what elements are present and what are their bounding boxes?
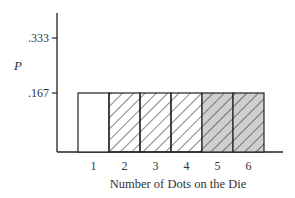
bar-1 (78, 93, 109, 152)
xtick-label-6: 6 (246, 159, 252, 173)
ytick-label-167: .167 (28, 86, 49, 100)
xtick-label-4: 4 (184, 159, 190, 173)
xtick-label-1: 1 (91, 159, 97, 173)
bar-5 (202, 93, 233, 152)
xtick-label-3: 3 (153, 159, 159, 173)
ytick-label-333: .333 (28, 31, 49, 45)
y-axis-label: P (13, 58, 22, 73)
xtick-label-2: 2 (122, 159, 128, 173)
bar-3 (140, 93, 171, 152)
x-axis-label: Number of Dots on the Die (110, 177, 247, 191)
bar-4 (171, 93, 202, 152)
bar-6 (233, 93, 264, 152)
xtick-label-5: 5 (215, 159, 221, 173)
probability-histogram: .333 .167 P 1 2 3 4 5 6 Number of Dots o… (0, 0, 295, 198)
bars (78, 93, 264, 152)
bar-2 (109, 93, 140, 152)
